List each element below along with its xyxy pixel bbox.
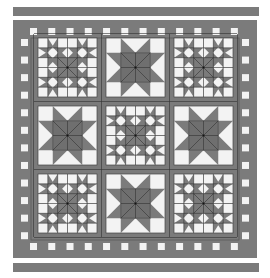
light-square xyxy=(194,87,204,97)
border-checker-square xyxy=(30,28,37,35)
light-square xyxy=(106,136,116,146)
border-checker-square xyxy=(21,109,28,116)
border-checker-square xyxy=(67,28,74,35)
light-square xyxy=(174,174,184,184)
center-dot xyxy=(67,135,69,137)
border-checker-square xyxy=(242,162,249,169)
light-square xyxy=(106,155,116,165)
quilt-block-simple-star xyxy=(174,106,233,165)
border-checker-square xyxy=(242,109,249,116)
border-checker-square xyxy=(21,127,28,134)
light-square xyxy=(223,194,233,204)
light-square xyxy=(87,204,97,214)
border-checker-square xyxy=(242,215,249,222)
light-square xyxy=(38,68,48,78)
light-square xyxy=(155,126,165,136)
border-checker-square xyxy=(21,39,28,46)
center-dot xyxy=(203,135,205,137)
light-square xyxy=(38,38,48,48)
border-checker-square xyxy=(21,232,28,239)
center-dot xyxy=(203,203,205,205)
center-dot xyxy=(67,67,69,69)
border-checker-square xyxy=(194,243,201,250)
light-square xyxy=(174,223,184,233)
border-checker-square xyxy=(213,28,220,35)
border-checker-square xyxy=(176,243,183,250)
border-checker-square xyxy=(21,57,28,64)
quilt xyxy=(13,20,257,258)
light-square xyxy=(194,38,204,48)
light-square xyxy=(223,87,233,97)
border-checker-square xyxy=(213,243,220,250)
border-checker-square xyxy=(121,28,128,35)
border-checker-square xyxy=(242,197,249,204)
light-square xyxy=(106,106,116,116)
light-square xyxy=(155,106,165,116)
light-square xyxy=(38,58,48,68)
light-square xyxy=(174,204,184,214)
light-square xyxy=(223,174,233,184)
border-checker-square xyxy=(121,243,128,250)
border-checker-square xyxy=(242,39,249,46)
border-checker-square xyxy=(67,243,74,250)
quilt-block-simple-star xyxy=(38,106,97,165)
border-checker-square xyxy=(30,243,37,250)
light-square xyxy=(58,223,68,233)
border-checker-square xyxy=(85,243,92,250)
light-square xyxy=(38,194,48,204)
bottom-bar xyxy=(13,263,259,272)
light-square xyxy=(204,223,214,233)
border-checker-square xyxy=(176,28,183,35)
light-square xyxy=(38,204,48,214)
border-checker-square xyxy=(21,162,28,169)
border-checker-square xyxy=(231,28,238,35)
border-checker-square xyxy=(103,28,110,35)
border-checker-square xyxy=(242,232,249,239)
border-checker-square xyxy=(242,144,249,151)
border-checker-square xyxy=(21,215,28,222)
border-checker-square xyxy=(242,92,249,99)
quilt-diagram xyxy=(0,0,270,278)
light-square xyxy=(126,155,136,165)
light-square xyxy=(174,68,184,78)
light-square xyxy=(204,174,214,184)
light-square xyxy=(38,174,48,184)
light-square xyxy=(38,223,48,233)
quilt-block-complex-star xyxy=(38,174,97,233)
light-square xyxy=(87,58,97,68)
center-dot xyxy=(203,67,205,69)
light-square xyxy=(174,87,184,97)
border-checker-square xyxy=(242,127,249,134)
border-checker-square xyxy=(242,74,249,81)
light-square xyxy=(87,68,97,78)
light-square xyxy=(58,38,68,48)
center-dot xyxy=(67,203,69,205)
border-checker-square xyxy=(158,28,165,35)
quilt-block-simple-star xyxy=(106,174,165,233)
quilt-block-complex-star xyxy=(174,174,233,233)
quilt-block-simple-star xyxy=(106,38,165,97)
top-bar xyxy=(13,7,259,16)
light-square xyxy=(38,87,48,97)
light-square xyxy=(58,87,68,97)
light-square xyxy=(204,87,214,97)
border-checker-square xyxy=(158,243,165,250)
border-checker-square xyxy=(21,180,28,187)
border-checker-square xyxy=(140,28,147,35)
light-square xyxy=(223,204,233,214)
quilt-block-complex-star xyxy=(106,106,165,165)
border-checker-square xyxy=(140,243,147,250)
light-square xyxy=(87,194,97,204)
center-dot xyxy=(135,135,137,137)
light-square xyxy=(174,38,184,48)
light-square xyxy=(223,38,233,48)
light-square xyxy=(194,223,204,233)
border-checker-square xyxy=(48,28,55,35)
light-square xyxy=(68,174,78,184)
border-checker-square xyxy=(21,197,28,204)
light-square xyxy=(68,38,78,48)
light-square xyxy=(223,58,233,68)
light-square xyxy=(174,194,184,204)
light-square xyxy=(87,223,97,233)
light-square xyxy=(68,223,78,233)
